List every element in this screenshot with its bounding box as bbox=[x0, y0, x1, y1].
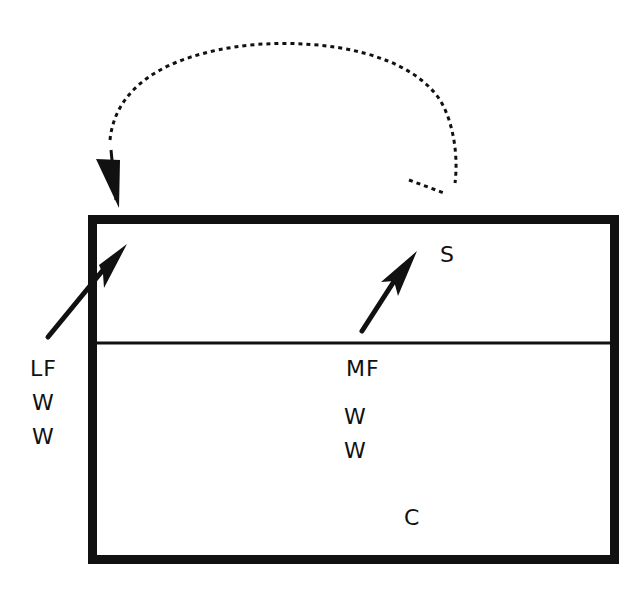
player-label-w-left-1: W bbox=[32, 392, 55, 414]
player-label-c: C bbox=[404, 507, 420, 529]
player-label-w-mid-1: W bbox=[344, 406, 367, 428]
ball-path-dotted-curve bbox=[110, 43, 456, 183]
ball-path-dotted-tail bbox=[409, 180, 444, 193]
player-label-w-left-2: W bbox=[32, 426, 55, 448]
player-label-mf: MF bbox=[346, 358, 380, 380]
player-label-w-mid-2: W bbox=[344, 440, 367, 462]
court-boundary bbox=[93, 220, 615, 560]
down-arrow-icon bbox=[96, 150, 120, 208]
player-label-s: S bbox=[440, 244, 455, 266]
mf-move-arrow-icon bbox=[362, 251, 417, 331]
player-label-lf: LF bbox=[30, 358, 57, 380]
court-diagram bbox=[0, 0, 644, 591]
lf-move-arrow-icon bbox=[48, 244, 127, 337]
